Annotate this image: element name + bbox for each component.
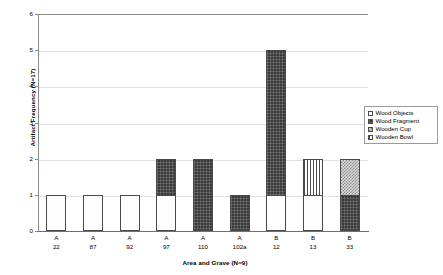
legend-label: Wooden Cup (376, 126, 411, 132)
legend-item[interactable]: Wooden Cup (368, 125, 435, 133)
bar-segment[interactable] (340, 159, 360, 195)
bar-slot (221, 14, 258, 231)
bar-segment[interactable] (266, 195, 286, 231)
bar-stack[interactable] (83, 195, 103, 231)
x-axis-line (38, 231, 369, 232)
bar-stack[interactable] (46, 195, 66, 231)
x-tick-label-grave: 33 (331, 243, 368, 252)
bar-slot (331, 14, 368, 231)
bar-slot (75, 14, 112, 231)
x-tick-label: B12 (258, 234, 295, 252)
x-tick-label-area: B (295, 234, 332, 243)
bar-segment[interactable] (340, 195, 360, 231)
bar-stack[interactable] (340, 159, 360, 231)
bar-segment[interactable] (303, 195, 323, 231)
bar-slot (258, 14, 295, 231)
x-tick-label: A97 (148, 234, 185, 252)
bar-segment[interactable] (193, 159, 213, 231)
x-tick-label-area: B (258, 234, 295, 243)
bar-stack[interactable] (303, 159, 323, 231)
x-tick-label: A102a (221, 234, 258, 252)
x-tick-label-grave: 12 (258, 243, 295, 252)
x-tick-label-grave: 22 (38, 243, 75, 252)
bar-stack[interactable] (193, 159, 213, 231)
bars-layer (38, 14, 368, 231)
y-tick-mark (35, 231, 38, 232)
chart-legend: Wood ObjectsWood FragmentWooden CupWoode… (364, 106, 438, 144)
bar-slot (111, 14, 148, 231)
legend-item[interactable]: Wood Objects (368, 109, 435, 117)
bar-stack[interactable] (156, 159, 176, 231)
x-tick-label-grave: 92 (111, 243, 148, 252)
y-tick-label: 5 (7, 47, 33, 53)
x-tick-label-grave: 13 (295, 243, 332, 252)
legend-swatch-icon (368, 135, 373, 140)
bar-segment[interactable] (120, 195, 140, 231)
legend-label: Wood Objects (376, 110, 414, 116)
bar-stack[interactable] (230, 195, 250, 231)
x-tick-label-area: A (111, 234, 148, 243)
legend-swatch-icon (368, 111, 373, 116)
x-tick-label-grave: 87 (75, 243, 112, 252)
x-tick-label: A110 (185, 234, 222, 252)
x-tick-label-area: A (221, 234, 258, 243)
y-tick-label: 2 (7, 156, 33, 162)
x-tick-label: A87 (75, 234, 112, 252)
bar-segment[interactable] (156, 195, 176, 231)
bar-segment[interactable] (303, 159, 323, 195)
x-tick-label-area: B (331, 234, 368, 243)
legend-label: Wood Fragment (376, 118, 420, 124)
x-axis-title: Area and Grave (N=9) (150, 259, 280, 266)
x-tick-label-area: A (185, 234, 222, 243)
bar-segment[interactable] (156, 159, 176, 195)
bar-slot (38, 14, 75, 231)
y-tick-label: 4 (7, 83, 33, 89)
x-tick-label: A92 (111, 234, 148, 252)
bar-stack[interactable] (266, 50, 286, 231)
legend-item[interactable]: Wooden Bowl (368, 133, 435, 141)
x-tick-label-area: A (38, 234, 75, 243)
bar-segment[interactable] (230, 195, 250, 231)
legend-label: Wooden Bowl (376, 134, 414, 140)
bar-segment[interactable] (266, 50, 286, 195)
bar-slot (295, 14, 332, 231)
bar-slot (185, 14, 222, 231)
x-tick-label-area: A (148, 234, 185, 243)
stacked-bar-chart: Artifact Frequency (N=17) 0123456 A22A87… (0, 0, 443, 275)
x-tick-label-area: A (75, 234, 112, 243)
legend-item[interactable]: Wood Fragment (368, 117, 435, 125)
x-tick-label-grave: 97 (148, 243, 185, 252)
x-tick-label: B33 (331, 234, 368, 252)
x-tick-label: B13 (295, 234, 332, 252)
x-axis-labels: A22A87A92A97A110A102aB12B13B33 (38, 234, 368, 256)
y-tick-label: 6 (7, 11, 33, 17)
x-tick-label: A22 (38, 234, 75, 252)
bar-segment[interactable] (46, 195, 66, 231)
y-tick-label: 1 (7, 192, 33, 198)
bar-slot (148, 14, 185, 231)
x-tick-label-grave: 110 (185, 243, 222, 252)
legend-swatch-icon (368, 127, 373, 132)
bar-stack[interactable] (120, 195, 140, 231)
legend-swatch-icon (368, 119, 373, 124)
y-tick-label: 0 (7, 228, 33, 234)
y-axis-title: Artifact Frequency (N=17) (29, 18, 36, 198)
bar-segment[interactable] (83, 195, 103, 231)
y-tick-label: 3 (7, 120, 33, 126)
x-tick-label-grave: 102a (221, 243, 258, 252)
